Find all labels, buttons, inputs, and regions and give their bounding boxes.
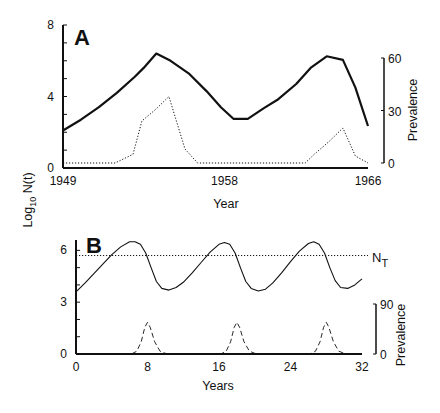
- y-axis-title-log: Log: [21, 207, 35, 228]
- x-tick-label: 16: [212, 360, 226, 374]
- y-tick-label: 0: [60, 347, 67, 361]
- panel-a-y2-axis-title: Prevalence: [406, 79, 420, 142]
- threshold-label-sub: T: [381, 257, 388, 269]
- figure: A 04819491958196603060 Year Prevalence L…: [0, 0, 440, 413]
- y-tick-label: 6: [60, 243, 67, 257]
- panel-b-marks: 03608162432090: [60, 240, 393, 374]
- x-tick-label: 32: [355, 360, 369, 374]
- x-tick-label: 0: [73, 360, 80, 374]
- y-tick-label: 8: [47, 18, 54, 32]
- y2-tick-label: 30: [388, 105, 402, 119]
- y-tick-label: 0: [47, 161, 54, 175]
- x-tick-label: 1958: [211, 174, 238, 188]
- x-tick-label: 8: [144, 360, 151, 374]
- panel-b-x-axis-title: Years: [202, 379, 234, 393]
- panel-b-label: B: [86, 233, 102, 258]
- x-tick-label: 1966: [355, 174, 382, 188]
- series-prevalence: [63, 97, 368, 164]
- x-tick-label: 24: [284, 360, 298, 374]
- panel-b: B 03608162432090 Years Prevalence NT: [60, 233, 408, 393]
- y-tick-label: 4: [47, 90, 54, 104]
- x-tick-label: 1949: [50, 174, 77, 188]
- series-prevalence-model: [76, 322, 362, 354]
- y-axis-title: Log10 N(t): [21, 172, 38, 227]
- threshold-label: NT: [372, 250, 388, 269]
- y-axis-title-sub: 10: [28, 197, 38, 207]
- y2-tick-label: 90: [380, 298, 394, 312]
- series-log10-n-t: [63, 54, 368, 131]
- y2-tick-label: 0: [388, 157, 395, 171]
- panel-a: A 04819491958196603060 Year Prevalence: [47, 18, 420, 211]
- panel-b-y2-axis-title: Prevalence: [394, 304, 408, 367]
- series-log10-n-t-model: [76, 242, 362, 292]
- panel-a-label: A: [74, 25, 90, 50]
- panel-a-marks: 04819491958196603060: [47, 18, 401, 188]
- y-tick-label: 3: [60, 295, 67, 309]
- y2-tick-label: 60: [388, 52, 402, 66]
- y-axis-title-rest: N(t): [21, 172, 35, 196]
- panel-a-x-axis-title: Year: [213, 197, 238, 211]
- threshold-label-main: N: [372, 250, 381, 265]
- y2-tick-label: 0: [380, 348, 387, 362]
